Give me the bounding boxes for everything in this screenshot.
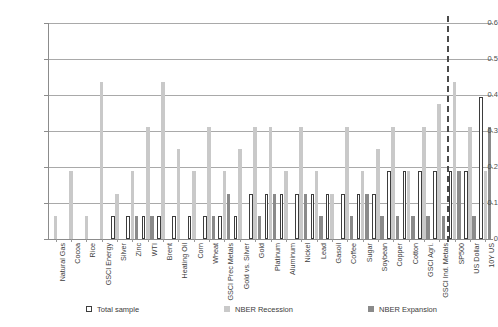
bar bbox=[100, 82, 104, 239]
bar bbox=[468, 127, 472, 239]
bar bbox=[376, 149, 380, 239]
x-axis-tick-mark bbox=[178, 239, 179, 242]
bar bbox=[411, 216, 415, 239]
bar bbox=[280, 194, 284, 239]
bar-chart: 00.10.20.30.40.50.6 Natural GasCocoaRice… bbox=[0, 0, 498, 327]
bar bbox=[218, 216, 222, 239]
legend-swatch-recession bbox=[224, 306, 230, 312]
x-axis-tick-mark bbox=[347, 239, 348, 242]
x-axis-category-label: Coffee bbox=[350, 243, 358, 264]
x-axis-category-label: Natural Gas bbox=[59, 243, 67, 281]
x-axis-tick-mark bbox=[132, 239, 133, 242]
bar bbox=[350, 216, 354, 239]
y-axis-tick-label: 0.2 bbox=[456, 163, 498, 171]
bar bbox=[396, 216, 400, 239]
separator-line bbox=[447, 16, 449, 242]
x-axis-tick-mark bbox=[194, 239, 195, 242]
bar bbox=[365, 194, 369, 239]
x-axis-category-label: Cocoa bbox=[74, 243, 82, 264]
x-axis-category-label: Cotton bbox=[412, 243, 420, 264]
bar bbox=[311, 194, 315, 239]
bar bbox=[212, 216, 216, 239]
bar bbox=[403, 171, 407, 239]
bar-group bbox=[172, 23, 184, 239]
bar-group bbox=[80, 23, 92, 239]
bar bbox=[341, 194, 345, 239]
x-axis-tick-mark bbox=[470, 239, 471, 242]
x-axis-category-label: SP500 bbox=[458, 243, 466, 265]
bar bbox=[265, 194, 269, 239]
bar bbox=[418, 171, 422, 239]
bar-group bbox=[218, 23, 230, 239]
bar bbox=[330, 194, 334, 239]
bar-group bbox=[50, 23, 62, 239]
x-axis-tick-mark bbox=[286, 239, 287, 242]
x-axis-category-label: Zinc bbox=[135, 243, 143, 257]
bar bbox=[391, 127, 395, 239]
chart-legend: Total sampleNBER RecessionNBER Expansion bbox=[48, 303, 478, 317]
bar bbox=[238, 149, 242, 239]
x-axis-tick-mark bbox=[240, 239, 241, 242]
bar-group bbox=[311, 23, 323, 239]
bar bbox=[326, 194, 330, 239]
legend-swatch-total bbox=[86, 306, 92, 312]
legend-swatch-expansion bbox=[368, 306, 374, 312]
bar bbox=[453, 82, 457, 239]
x-axis-category-label: US Dollar bbox=[473, 243, 481, 274]
bar bbox=[315, 171, 319, 239]
bar-group bbox=[188, 23, 200, 239]
legend-item: NBER Recession bbox=[224, 303, 293, 315]
bar bbox=[253, 127, 257, 239]
bar-group bbox=[418, 23, 430, 239]
bar bbox=[422, 127, 426, 239]
bar-group bbox=[96, 23, 108, 239]
plot-area bbox=[48, 23, 493, 239]
x-axis-tick-mark bbox=[148, 239, 149, 242]
x-axis-category-label: Silver bbox=[120, 243, 128, 261]
bar bbox=[69, 171, 73, 239]
x-axis-tick-mark bbox=[271, 239, 272, 242]
bar bbox=[269, 127, 273, 239]
bar bbox=[150, 216, 154, 239]
bar bbox=[488, 127, 492, 239]
bar-group bbox=[341, 23, 353, 239]
x-axis-tick-mark bbox=[209, 239, 210, 242]
bar-group bbox=[357, 23, 369, 239]
bar bbox=[372, 194, 376, 239]
legend-item: NBER Expansion bbox=[368, 303, 437, 315]
bar bbox=[361, 171, 365, 239]
bar bbox=[126, 216, 130, 239]
bar-group bbox=[234, 23, 246, 239]
x-axis-tick-mark bbox=[409, 239, 410, 242]
x-axis-tick-mark bbox=[393, 239, 394, 242]
x-axis-tick-mark bbox=[317, 239, 318, 242]
x-axis-category-label: Aluminum bbox=[289, 243, 297, 275]
bar bbox=[131, 171, 135, 239]
y-axis-tick-label: 0.6 bbox=[456, 19, 498, 27]
bar-group bbox=[280, 23, 292, 239]
x-axis-category-label: 10Y US bbox=[488, 243, 496, 268]
bar bbox=[442, 216, 446, 239]
bar bbox=[295, 194, 299, 239]
bar-group bbox=[265, 23, 277, 239]
x-axis-category-label: Gold vs. Silver bbox=[243, 243, 251, 289]
x-axis-category-label: Soybean bbox=[381, 243, 389, 271]
x-axis-tick-mark bbox=[363, 239, 364, 242]
legend-label: NBER Recession bbox=[235, 305, 293, 314]
x-axis-category-label: Lead bbox=[320, 243, 328, 259]
bar bbox=[437, 104, 441, 239]
x-axis-category-label: Heating Oil bbox=[181, 243, 189, 279]
x-axis-category-label: Gasoil bbox=[335, 243, 343, 263]
x-axis-tick-mark bbox=[332, 239, 333, 242]
x-axis-category-label: GSCI Energy bbox=[105, 243, 113, 285]
x-axis-tick-mark bbox=[255, 239, 256, 242]
bar-group bbox=[249, 23, 261, 239]
y-axis-tick-label: 0.1 bbox=[456, 199, 498, 207]
bar-group bbox=[142, 23, 154, 239]
bar bbox=[273, 194, 277, 239]
bar bbox=[188, 216, 192, 239]
legend-label: Total sample bbox=[97, 305, 139, 314]
x-axis-category-label: Wheat bbox=[212, 243, 220, 264]
x-axis-tick-mark bbox=[102, 239, 103, 242]
bar-group bbox=[295, 23, 307, 239]
